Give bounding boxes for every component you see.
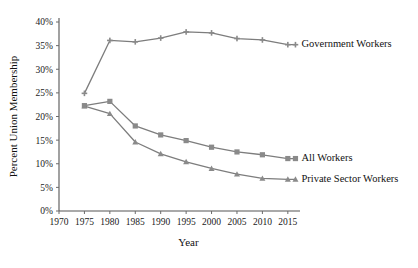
data-series-group — [81, 29, 298, 182]
x-tick-label: 1975 — [75, 217, 94, 227]
x-tick-label: 1985 — [126, 217, 145, 227]
x-tick-label: 2005 — [227, 217, 246, 227]
y-tick-label: 30% — [36, 65, 54, 75]
y-axis-title: Percent Union Membership — [7, 55, 19, 177]
y-tick-label: 35% — [36, 41, 54, 51]
data-point-marker — [107, 38, 113, 44]
data-point-marker — [107, 99, 112, 104]
y-tick-label: 20% — [36, 112, 54, 122]
chart-container: 0%5%10%15%20%25%30%35%40% 19701975198019… — [0, 0, 418, 268]
x-axis-group: 1970197519801985199019952000200520102015 — [50, 211, 301, 227]
series-label-marker — [293, 156, 298, 161]
data-point-marker — [260, 37, 266, 43]
data-point-marker — [183, 29, 189, 35]
data-point-marker — [158, 132, 163, 137]
series-all-workers — [82, 99, 298, 161]
series-government-workers — [82, 29, 299, 96]
x-tick-label: 1970 — [50, 217, 69, 227]
x-tick-label: 1995 — [177, 217, 196, 227]
data-point-marker — [132, 39, 138, 45]
series-label-private-sector-workers: Private Sector Workers — [301, 173, 398, 184]
y-tick-label: 0% — [40, 206, 53, 216]
series-private-sector-workers — [81, 103, 298, 182]
data-point-marker — [184, 138, 189, 143]
y-axis-ticks: 0%5%10%15%20%25%30%35%40% — [36, 17, 59, 216]
data-point-marker — [209, 30, 215, 36]
y-tick-label: 10% — [36, 159, 54, 169]
series-line — [84, 106, 295, 179]
series-label-all-workers: All Workers — [301, 152, 352, 163]
series-line — [84, 101, 295, 158]
x-tick-label: 1990 — [151, 217, 170, 227]
series-label-government-workers: Government Workers — [301, 38, 391, 49]
y-tick-label: 5% — [40, 183, 53, 193]
series-labels-group: Government WorkersAll WorkersPrivate Sec… — [301, 38, 398, 184]
x-axis-ticks: 1970197519801985199019952000200520102015 — [50, 211, 298, 227]
y-axis-group: 0%5%10%15%20%25%30%35%40% — [36, 17, 59, 216]
data-point-marker — [158, 35, 164, 41]
x-tick-label: 2010 — [253, 217, 272, 227]
data-point-marker — [285, 156, 290, 161]
x-tick-label: 2015 — [278, 217, 297, 227]
y-tick-label: 15% — [36, 136, 54, 146]
data-point-marker — [82, 91, 88, 97]
data-point-marker — [234, 149, 239, 154]
data-point-marker — [234, 36, 240, 42]
y-tick-label: 40% — [36, 17, 54, 27]
series-line — [84, 32, 295, 93]
data-point-marker — [285, 42, 291, 48]
x-tick-label: 1980 — [100, 217, 119, 227]
data-point-marker — [133, 123, 138, 128]
x-tick-label: 2000 — [202, 217, 221, 227]
x-axis-title: Year — [178, 236, 199, 248]
data-point-marker — [209, 145, 214, 150]
union-membership-line-chart: 0%5%10%15%20%25%30%35%40% 19701975198019… — [0, 0, 418, 268]
data-point-marker — [260, 152, 265, 157]
series-label-marker — [293, 42, 299, 48]
y-tick-label: 25% — [36, 88, 54, 98]
